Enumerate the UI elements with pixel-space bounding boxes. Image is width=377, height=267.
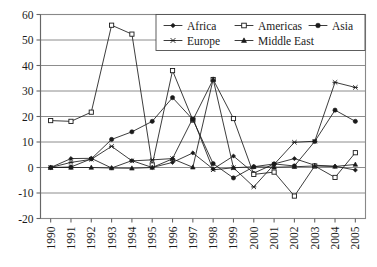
data-point-marker — [353, 151, 357, 155]
y-tick-label: 0 — [28, 162, 34, 174]
x-tick-label: 1999 — [227, 226, 239, 249]
legend-label: Europe — [187, 35, 220, 48]
line-chart: -20-100102030405060 19901991199219931994… — [0, 0, 377, 267]
data-point-marker — [231, 116, 235, 120]
data-point-marker — [272, 170, 276, 174]
legend-label: Africa — [187, 20, 216, 32]
x-tick-label: 2002 — [288, 226, 300, 249]
data-point-marker — [130, 32, 134, 36]
x-tick-label: 1994 — [126, 226, 138, 249]
x-tick-label: 1997 — [187, 226, 199, 249]
data-point-marker — [130, 130, 134, 134]
data-point-marker — [109, 137, 113, 141]
legend-label: Americas — [258, 20, 303, 32]
x-tick-label: 2001 — [268, 226, 280, 249]
data-point-marker — [109, 23, 113, 27]
data-point-marker — [292, 194, 296, 198]
data-point-marker — [316, 23, 321, 28]
data-point-marker — [231, 176, 235, 180]
data-point-marker — [353, 119, 357, 123]
x-tick-label: 1998 — [207, 226, 219, 249]
x-tick-label: 1991 — [65, 226, 77, 249]
y-tick-label: 40 — [22, 60, 34, 72]
legend-label: Asia — [332, 20, 353, 32]
y-tick-label: 20 — [22, 111, 34, 123]
data-point-marker — [150, 119, 154, 123]
y-tick-label: 30 — [22, 85, 34, 97]
x-tick-label: 2000 — [248, 226, 260, 249]
data-point-marker — [49, 118, 53, 122]
chart-legend: AfricaAmericasAsiaEuropeMiddle East — [156, 15, 365, 51]
y-tick-label: 10 — [22, 136, 34, 148]
x-tick-label: 2004 — [329, 226, 341, 249]
data-point-marker — [89, 110, 93, 114]
data-point-marker — [170, 69, 174, 73]
legend-label: Middle East — [258, 35, 315, 47]
y-tick-label: 60 — [22, 9, 34, 21]
x-tick-label: 2003 — [309, 226, 321, 249]
x-tick-label: 1996 — [167, 226, 179, 249]
y-tick-label: -10 — [18, 187, 34, 199]
data-point-marker — [242, 23, 247, 28]
data-point-marker — [69, 119, 73, 123]
x-tick-label: 2005 — [349, 226, 361, 249]
y-tick-label: 50 — [22, 34, 34, 46]
x-tick-label: 1995 — [146, 226, 158, 249]
data-point-marker — [252, 172, 256, 176]
x-tick-label: 1993 — [106, 226, 118, 249]
data-point-marker — [333, 175, 337, 179]
y-tick-label: -20 — [18, 213, 34, 225]
x-tick-label: 1990 — [45, 226, 57, 249]
chart-container: -20-100102030405060 19901991199219931994… — [0, 0, 377, 267]
data-point-marker — [333, 108, 337, 112]
x-tick-label: 1992 — [85, 226, 97, 249]
data-point-marker — [170, 96, 174, 100]
